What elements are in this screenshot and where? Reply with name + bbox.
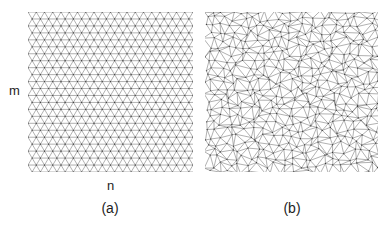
figure-container: m n (a) (b) <box>0 0 387 226</box>
mesh-edges <box>205 12 378 172</box>
axis-label-n: n <box>107 179 114 192</box>
axis-label-m: m <box>9 84 20 97</box>
unstructured-triangular-mesh-panel-b <box>205 12 378 172</box>
mesh-nodes <box>28 12 193 172</box>
mesh-edges <box>28 12 193 172</box>
panel-caption-a: (a) <box>80 201 140 215</box>
structured-triangular-mesh-panel-a <box>28 12 193 172</box>
panel-caption-b: (b) <box>262 201 322 215</box>
